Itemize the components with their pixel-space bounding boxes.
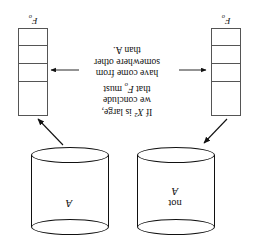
freq-box-right-label-base: F	[32, 16, 38, 26]
cylinder-not-a: not A	[135, 147, 215, 235]
freq-box-left-label-sub: o	[222, 14, 225, 21]
cylinder-a-body	[31, 155, 109, 227]
cylinder-a-label-line2: A	[29, 197, 109, 209]
caption-line1-sup: 2	[134, 112, 137, 119]
freq-box-right	[18, 28, 48, 116]
cylinder-not-a-label: not A	[135, 185, 215, 209]
cylinder-not-a-label-line1: not	[135, 197, 215, 209]
cylinder-a: A	[29, 147, 109, 235]
freq-box-left-cell	[212, 63, 240, 81]
freq-box-right-label-sub: o	[29, 14, 32, 21]
caption-line1-pre: If	[144, 107, 153, 118]
caption-text: If X2 is large, we conclude that Fo must…	[80, 44, 174, 121]
caption-line-1: If X2 is large,	[80, 106, 174, 121]
caption-line-6: than A.	[80, 44, 174, 56]
freq-box-right-cell	[19, 81, 47, 115]
caption-line3-sub: o	[125, 82, 128, 89]
caption-line-2: we conclude	[80, 95, 174, 107]
caption-line1-post: is large,	[102, 107, 135, 118]
cylinder-not-a-top-ellipse	[137, 219, 215, 235]
caption-line3-post: must	[103, 84, 124, 95]
caption-line-3: that Fo must	[80, 79, 174, 95]
freq-box-left-cell	[212, 45, 240, 63]
cylinder-not-a-label-line2: A	[135, 185, 215, 197]
figure-canvas: not A A Fo Fo	[0, 0, 257, 247]
freq-box-right-cell	[19, 27, 47, 45]
freq-box-left	[211, 28, 241, 116]
cylinder-not-a-bottom-ellipse	[137, 147, 215, 163]
freq-box-left-label-base: F	[225, 16, 231, 26]
cylinder-a-top-ellipse	[31, 219, 109, 235]
caption-line1-var: X	[138, 107, 144, 118]
caption-line-4: have come from	[80, 68, 174, 80]
caption-line3-pre: that	[134, 84, 151, 95]
caption-line3-var: F	[128, 84, 134, 95]
freq-box-left-cell	[212, 81, 240, 115]
arrow-box-left-to-cylinder-not-a	[204, 119, 227, 143]
freq-box-right-cell	[19, 45, 47, 63]
freq-box-right-cell	[19, 63, 47, 81]
cylinder-a-bottom-ellipse	[31, 147, 109, 163]
cylinder-a-label: A	[29, 197, 109, 209]
arrow-cylinder-a-to-box-right	[38, 119, 63, 145]
freq-box-left-label: Fo	[211, 14, 241, 26]
freq-box-right-label: Fo	[18, 14, 48, 26]
caption-line-5: somewhere other	[80, 56, 174, 68]
rotated-figure-content: not A A Fo Fo	[0, 0, 257, 247]
freq-box-left-cell	[212, 27, 240, 45]
